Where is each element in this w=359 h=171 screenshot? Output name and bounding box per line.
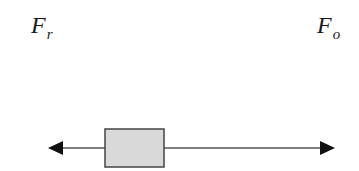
left-arrowhead-icon [48,141,63,155]
diagram-graphics [0,0,359,171]
right-arrowhead-icon [320,141,335,155]
object-box [105,129,164,167]
force-diagram: Fr Fo [0,0,359,171]
